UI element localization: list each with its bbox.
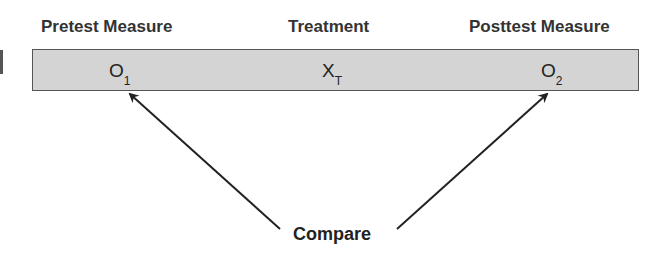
compare-label: Compare	[293, 224, 371, 245]
arrow-to-pretest-icon	[130, 94, 280, 229]
arrow-to-posttest-icon	[397, 94, 547, 229]
compare-arrows	[0, 0, 656, 261]
